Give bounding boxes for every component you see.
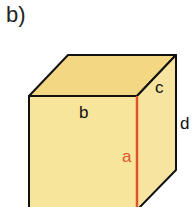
edge-label-a: a (122, 147, 132, 166)
edge-label-b: b (79, 103, 88, 122)
cuboid-diagram: b c d a (0, 0, 195, 207)
edge-label-d: d (180, 114, 189, 133)
edge-label-c: c (155, 78, 164, 97)
